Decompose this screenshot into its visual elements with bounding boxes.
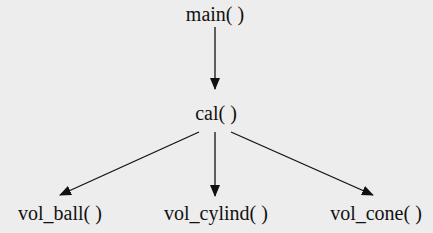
node-cal: cal( ) xyxy=(195,103,237,123)
node-vol-cone: vol_cone( ) xyxy=(330,203,422,223)
edge-cal-vol-ball xyxy=(60,132,199,195)
node-vol-cylind: vol_cylind( ) xyxy=(164,203,268,223)
edge-cal-vol-cone xyxy=(231,132,373,195)
node-main: main( ) xyxy=(186,4,244,24)
node-vol-ball: vol_ball( ) xyxy=(18,203,102,223)
